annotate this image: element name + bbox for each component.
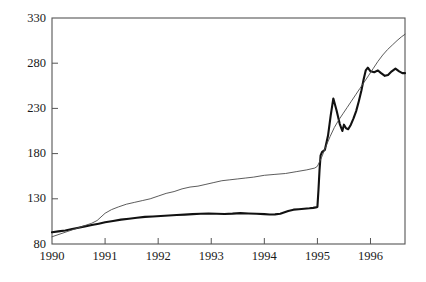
x-tick-label: 1993 xyxy=(185,250,237,263)
x-axis-ticks xyxy=(105,238,370,244)
x-tick-label: 1995 xyxy=(291,250,343,263)
series-line-thick-line xyxy=(52,68,405,233)
y-axis-ticks xyxy=(52,63,58,199)
x-tick-label: 1996 xyxy=(344,250,396,263)
data-series-group xyxy=(52,34,405,237)
plot-frame xyxy=(52,18,405,244)
x-tick-label: 1991 xyxy=(79,250,131,263)
y-tick-label: 280 xyxy=(4,57,46,70)
y-tick-label: 180 xyxy=(4,147,46,160)
y-tick-label: 330 xyxy=(4,12,46,25)
series-line-thin-line xyxy=(52,34,405,237)
x-tick-label: 1994 xyxy=(238,250,290,263)
y-tick-label: 130 xyxy=(4,192,46,205)
chart-figure: 80130180230280330 1990199119921993199419… xyxy=(0,0,426,282)
x-tick-label: 1992 xyxy=(132,250,184,263)
chart-plot-area xyxy=(0,0,426,282)
x-tick-label: 1990 xyxy=(26,250,78,263)
y-tick-label: 230 xyxy=(4,102,46,115)
axis-frame xyxy=(52,18,405,244)
